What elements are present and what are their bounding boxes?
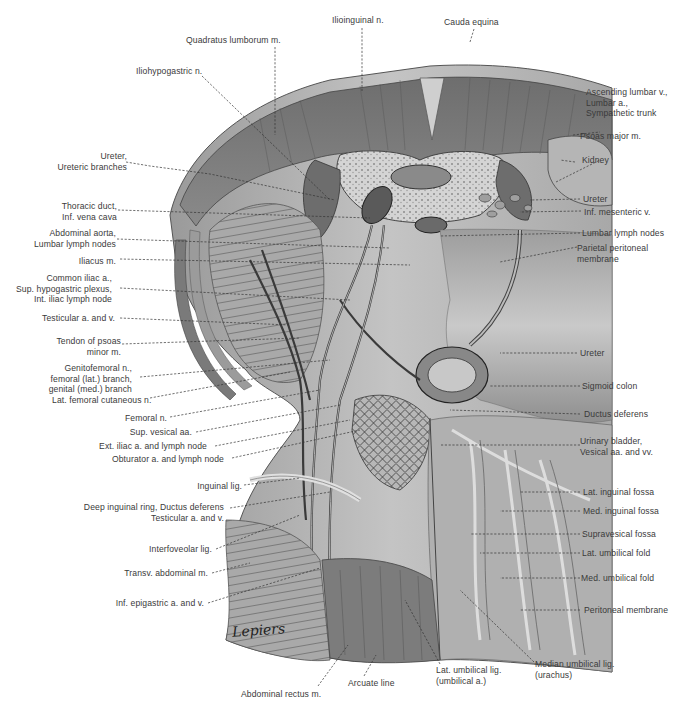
label-inf-mesenteric: Inf. mesenteric v. (584, 207, 651, 218)
label-urinary-bladder: Urinary bladder,Vesical aa. and vv. (580, 436, 653, 457)
label-abdominal-aorta: Abdominal aorta,Lumbar lymph nodes (34, 228, 116, 249)
label-med-umbilical-fold: Med. umbilical fold (581, 573, 654, 584)
label-parietal-peritoneal: Parietal peritonealmembrane (577, 243, 648, 264)
label-ascending-lumbar: Ascending lumbar v.,Lumbar a.,Sympatheti… (586, 87, 668, 119)
label-lumbar-lymph: Lumbar lymph nodes (582, 228, 664, 239)
label-lat-umbilical-fold: Lat. umbilical fold (582, 548, 650, 559)
label-iliacus-m: Iliacus m. (79, 256, 116, 267)
label-cauda-equina: Cauda equina (444, 17, 499, 28)
label-ductus-deferens: Ductus deferens (584, 409, 648, 420)
label-sigmoid-colon: Sigmoid colon (582, 381, 637, 392)
label-inguinal-lig: Inguinal lig. (197, 481, 242, 492)
label-ext-iliac: Ext. iliac a. and lymph node (99, 441, 207, 452)
label-tendon-psoas-minor: Tendon of psoasminor m. (56, 336, 121, 357)
label-genitofemoral-n: Genitofemoral n.,femoral (lat.) branch,g… (49, 363, 132, 395)
label-testicular-av: Testicular a. and v. (42, 313, 115, 324)
label-obturator: Obturator a. and lymph node (112, 454, 224, 465)
label-ureter-upper: Ureter (583, 194, 607, 205)
label-peritoneal-membrane: Peritoneal membrane (584, 605, 668, 616)
label-inf-epigastric: Inf. epigastric a. and v. (116, 598, 204, 609)
label-supravesical-fossa: Supravesical fossa (582, 529, 656, 540)
label-iliohypogastric-n: Iliohypogastric n. (136, 66, 202, 77)
label-ureter-lower: Ureter (580, 348, 604, 359)
label-med-inguinal-fossa: Med. inguinal fossa (583, 506, 659, 517)
label-abdominal-rectus: Abdominal rectus m. (241, 689, 321, 700)
label-thoracic-duct: Thoracic duct,Inf. vena cava (62, 201, 117, 222)
label-lat-femoral-cutaneous: Lat. femoral cutaneous n. (52, 395, 151, 406)
label-psoas-major: Psoas major m. (580, 131, 641, 142)
label-lat-umbilical-lig: Lat. umbilical lig.(umbilical a.) (436, 665, 501, 686)
label-lat-inguinal-fossa: Lat. inguinal fossa (583, 487, 654, 498)
label-quadratus-lumborum: Quadratus lumborum m. (186, 35, 281, 46)
label-sup-vesical: Sup. vesical aa. (130, 427, 192, 438)
label-transv-abdominal: Transv. abdominal m. (124, 568, 208, 579)
label-ilioinguinal-n: Ilioinguinal n. (332, 15, 384, 26)
label-kidney: Kidney (582, 155, 609, 166)
label-interfoveolar-lig: Interfoveolar lig. (149, 544, 212, 555)
label-femoral-n: Femoral n. (125, 413, 167, 424)
label-deep-inguinal-ring: Deep inguinal ring, Ductus deferensTesti… (84, 502, 224, 523)
label-arcuate-line: Arcuate line (348, 678, 395, 689)
label-median-umbilical-lig: Median umbilical lig.(urachus) (535, 659, 614, 680)
label-ureter-branches: Ureter,Ureteric branches (57, 151, 127, 172)
label-common-iliac: Common iliac a.,Sup. hypogastric plexus,… (16, 273, 112, 305)
